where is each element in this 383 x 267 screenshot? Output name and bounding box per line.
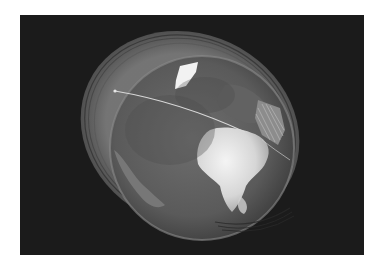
trajectory-start-marker bbox=[113, 89, 116, 92]
globe-scene bbox=[0, 0, 383, 267]
globe bbox=[110, 56, 294, 240]
